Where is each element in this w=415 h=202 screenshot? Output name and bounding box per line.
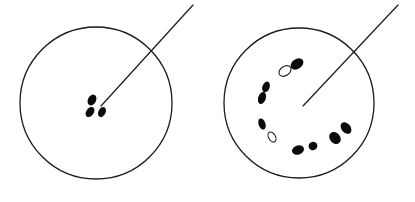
- left-panel-pointer-line: [101, 5, 193, 106]
- mark-filled: [261, 81, 272, 94]
- mark-filled: [338, 120, 353, 136]
- left-panel-circle: [20, 27, 172, 179]
- figure-root: [0, 0, 415, 202]
- mark-filled: [257, 117, 267, 130]
- mark-filled: [86, 93, 99, 107]
- mark-filled: [291, 144, 306, 157]
- right-panel-pointer-line: [303, 5, 398, 106]
- left-panel-marks: [84, 93, 108, 119]
- mark-filled: [256, 91, 267, 105]
- mark-filled: [96, 106, 107, 119]
- mark-hollow: [266, 131, 277, 144]
- right-panel: [224, 5, 398, 178]
- figure-svg: [0, 0, 415, 202]
- mark-filled: [327, 130, 343, 147]
- mark-filled: [84, 105, 97, 119]
- right-panel-marks: [256, 56, 353, 157]
- left-panel: [20, 5, 193, 179]
- mark-filled: [308, 141, 319, 151]
- right-panel-circle: [224, 28, 374, 178]
